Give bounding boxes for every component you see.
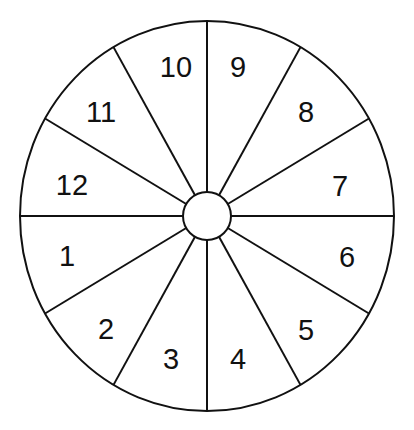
sector-label: 8 xyxy=(298,96,314,128)
sector-label: 1 xyxy=(59,240,75,272)
sector-label: 3 xyxy=(163,343,179,375)
sector-label: 5 xyxy=(298,314,314,346)
sector-label: 10 xyxy=(160,51,192,83)
sector-label: 7 xyxy=(332,170,348,202)
spinner-wheel: 123456789101112 xyxy=(0,0,414,430)
sector-label: 4 xyxy=(230,343,246,375)
sector-label: 11 xyxy=(86,96,116,128)
sector-label: 9 xyxy=(230,51,246,83)
sector-label: 12 xyxy=(56,169,88,201)
sector-label: 2 xyxy=(98,313,114,345)
sector-label: 6 xyxy=(339,241,355,273)
center-hub xyxy=(183,192,231,240)
